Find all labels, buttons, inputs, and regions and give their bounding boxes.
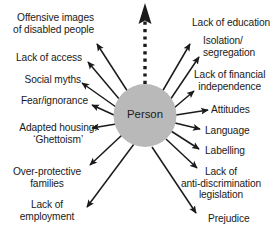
dotted-up-arrow bbox=[139, 3, 152, 84]
label-line: families bbox=[13, 178, 81, 190]
label-isolation-segregation: Isolation/ segregation bbox=[203, 35, 255, 58]
label-attitudes: Attitudes bbox=[211, 104, 250, 116]
arrow-lack-of-anti-discrimination bbox=[166, 139, 197, 168]
label-language: Language bbox=[205, 125, 250, 137]
label-line: of disabled people bbox=[13, 24, 94, 36]
label-lack-of-anti-discrimination-legislation: Lack of anti-discrimination legislation bbox=[181, 166, 261, 201]
label-lack-of-education: Lack of education bbox=[192, 17, 270, 29]
label-line: Adapted housing: bbox=[19, 122, 97, 134]
label-line: segregation bbox=[203, 47, 255, 59]
label-line: Social myths bbox=[24, 74, 81, 86]
label-lack-of-employment: Lack of employment bbox=[20, 199, 75, 222]
arrow-lack-of-education bbox=[162, 44, 190, 92]
label-adapted-housing: Adapted housing: ‘Ghettoism’ bbox=[19, 122, 97, 145]
arrow-lack-of-employment bbox=[87, 144, 134, 207]
label-over-protective-families: Over-protective families bbox=[13, 166, 81, 189]
label-line: employment bbox=[20, 211, 75, 223]
arrow-attitudes bbox=[176, 110, 208, 115]
label-line: Isolation/ bbox=[203, 35, 255, 47]
label-line: Labelling bbox=[205, 145, 245, 157]
label-labelling: Labelling bbox=[205, 145, 245, 157]
arrow-offensive-images bbox=[97, 44, 128, 92]
label-line: Lack of bbox=[181, 166, 261, 178]
arrow-labelling bbox=[171, 131, 199, 149]
label-line: ‘Ghettoism’ bbox=[19, 134, 97, 146]
arrow-fear-ignorance bbox=[92, 105, 114, 115]
label-line: Fear/ignorance bbox=[21, 95, 88, 107]
label-lack-of-financial-independence: Lack of financial independence bbox=[194, 69, 265, 92]
label-line: Lack of access bbox=[16, 52, 82, 64]
center-label: Person bbox=[127, 108, 163, 120]
label-lack-of-access: Lack of access bbox=[16, 52, 82, 64]
label-prejudice: Prejudice bbox=[208, 213, 250, 225]
label-fear-ignorance: Fear/ignorance bbox=[21, 95, 88, 107]
arrow-lack-of-access bbox=[88, 62, 120, 100]
label-line: Offensive images bbox=[13, 12, 94, 24]
arrow-language bbox=[175, 123, 200, 129]
arrow-lack-of-financial-independence bbox=[174, 91, 194, 108]
label-line: anti-discrimination bbox=[181, 178, 261, 190]
label-line: Lack of education bbox=[192, 17, 270, 29]
label-offensive-images: Offensive images of disabled people bbox=[13, 12, 94, 35]
label-line: Prejudice bbox=[208, 213, 250, 225]
label-line: independence bbox=[194, 81, 265, 93]
label-line: Lack of bbox=[20, 199, 75, 211]
label-line: Language bbox=[205, 125, 250, 137]
label-line: legislation bbox=[181, 189, 261, 201]
label-social-myths: Social myths bbox=[24, 74, 81, 86]
label-line: Over-protective bbox=[13, 166, 81, 178]
radial-diagram: Person Offensive images of disabled peop… bbox=[0, 0, 279, 232]
label-line: Attitudes bbox=[211, 104, 250, 116]
label-line: Lack of financial bbox=[194, 69, 265, 81]
